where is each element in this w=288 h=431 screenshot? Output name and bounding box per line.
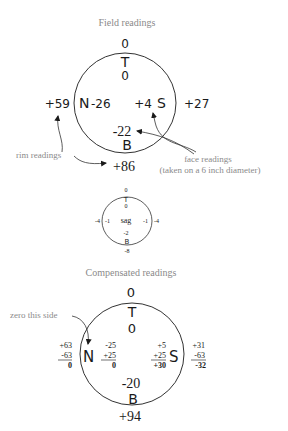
comp-right-rim-result: -32 xyxy=(195,361,206,370)
comp-left-rim-result: 0 xyxy=(68,361,72,370)
field-bottom-letter: B xyxy=(122,137,132,153)
field-top-rim: 0 xyxy=(121,37,129,51)
sag-left-face: -1 xyxy=(105,218,110,224)
comp-left-letter: N xyxy=(83,348,94,366)
sag-right-face: -1 xyxy=(143,218,148,224)
alignment-diagram: Field readings 0 T 0 +59 N -26 +4 S +27 … xyxy=(0,0,288,431)
face-readings-label: face readings xyxy=(184,154,232,164)
comp-right-rim-stack: +31 -63 -32 xyxy=(191,341,206,370)
field-top-face: 0 xyxy=(121,69,129,83)
comp-left-rim-2: -63 xyxy=(61,351,72,360)
comp-top-letter: T xyxy=(127,304,137,320)
rim-arrow-right xyxy=(74,156,106,164)
sag-top-rim: 0 xyxy=(125,187,128,193)
sag-bottom-face: -2 xyxy=(124,230,129,236)
field-left-rim: +59 xyxy=(45,97,70,111)
sag-left-rim: -4 xyxy=(95,218,100,224)
sag-bottom-letter: B xyxy=(125,238,130,246)
comp-bottom-face: -20 xyxy=(122,376,141,391)
comp-left-face-2: +25 xyxy=(103,351,116,360)
field-left-letter: N xyxy=(79,95,89,111)
field-right-letter: S xyxy=(157,95,166,111)
rim-readings-label: rim readings xyxy=(16,150,62,160)
comp-left-face-stack: -25 +25 0 xyxy=(101,341,116,370)
face-arrow-bottom xyxy=(137,131,194,154)
face-readings-sublabel: (taken on a 6 inch diameter) xyxy=(159,165,260,175)
sag-right-rim: -4 xyxy=(154,218,159,224)
comp-bottom-rim: +94 xyxy=(119,409,141,424)
comp-left-rim-stack: +63 -63 0 xyxy=(58,341,72,370)
comp-right-face-1: +5 xyxy=(157,341,166,350)
field-readings-group: Field readings 0 T 0 +59 N -26 +4 S +27 … xyxy=(16,17,261,175)
comp-left-rim-1: +63 xyxy=(59,341,72,350)
comp-top-face: 0 xyxy=(128,321,136,336)
sag-group: 0 T 0 -4 -1 sag -1 -4 -2 B -8 xyxy=(95,187,159,254)
zero-this-side-label: zero this side xyxy=(10,310,58,320)
compensated-readings-title: Compensated readings xyxy=(86,267,177,278)
field-readings-title: Field readings xyxy=(99,17,156,28)
comp-bottom-letter: B xyxy=(128,391,138,407)
comp-left-face-result: 0 xyxy=(112,361,116,370)
sag-top-face: 0 xyxy=(125,203,128,209)
field-right-face: +4 xyxy=(134,97,152,111)
compensated-readings-group: Compensated readings 0 T 0 zero this sid… xyxy=(10,267,206,424)
field-bottom-rim: +86 xyxy=(113,159,135,174)
comp-right-rim-2: -63 xyxy=(194,351,205,360)
comp-top-rim: 0 xyxy=(127,285,135,300)
field-left-face: -26 xyxy=(91,97,111,111)
sag-center-label: sag xyxy=(121,216,132,225)
rim-arrow-up xyxy=(58,116,63,152)
field-top-letter: T xyxy=(120,54,130,70)
field-right-rim: +27 xyxy=(184,97,209,111)
comp-left-face-1: -25 xyxy=(105,341,116,350)
comp-right-face-result: +30 xyxy=(153,361,166,370)
comp-right-face-stack: +5 +25 +30 xyxy=(151,341,166,370)
sag-bottom-rim: -8 xyxy=(125,248,130,254)
face-arrow-right xyxy=(153,113,196,152)
comp-right-face-2: +25 xyxy=(153,351,166,360)
comp-right-rim-1: +31 xyxy=(192,341,205,350)
comp-right-letter: S xyxy=(169,348,179,366)
